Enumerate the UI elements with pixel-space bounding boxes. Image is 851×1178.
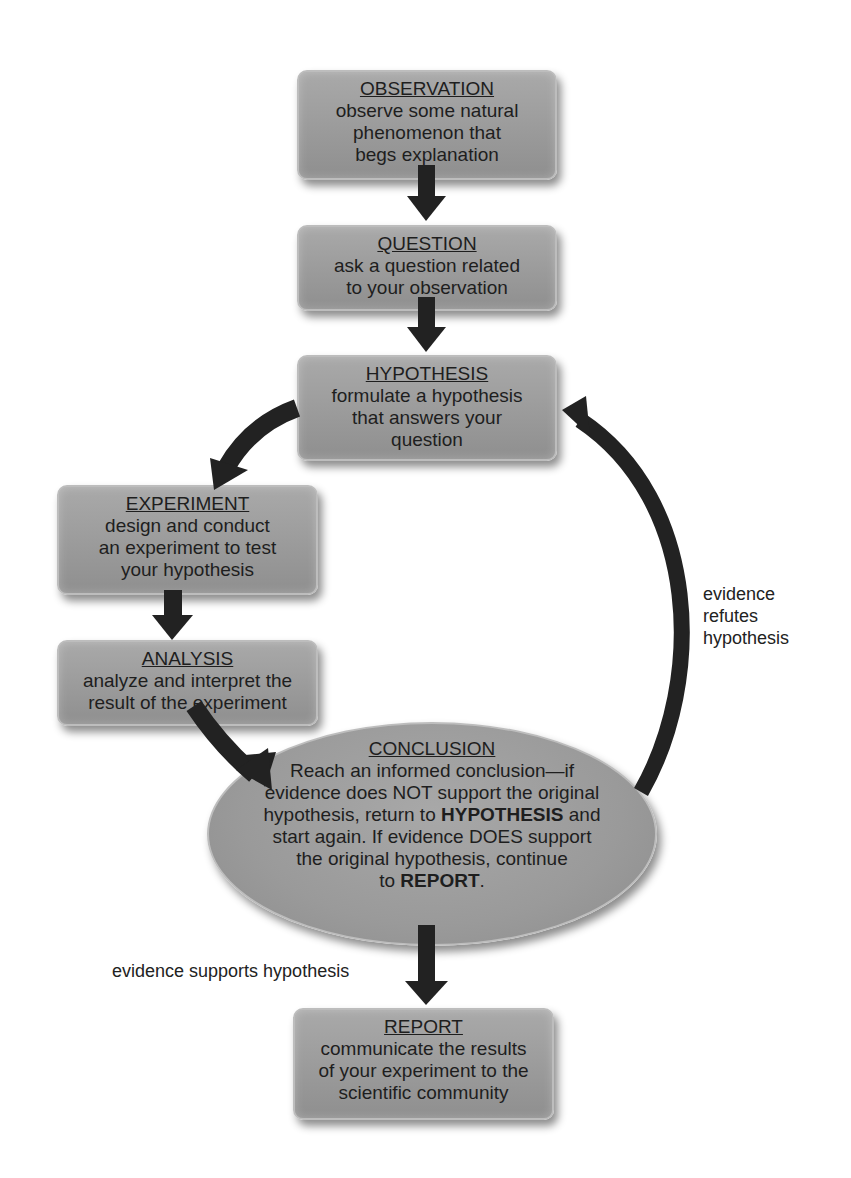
node-hypothesis: HYPOTHESIS formulate a hypothesis that a…: [297, 355, 557, 461]
node-description: ask a question related to your observati…: [299, 255, 555, 299]
node-description: design and conduct an experiment to test…: [59, 515, 316, 581]
node-experiment: EXPERIMENT design and conduct an experim…: [57, 485, 318, 595]
node-question: QUESTION ask a question related to your …: [297, 225, 557, 311]
node-title: QUESTION: [299, 233, 555, 255]
node-title: ANALYSIS: [59, 648, 316, 670]
node-description: analyze and interpret the result of the …: [59, 670, 316, 714]
edge-label-supports: evidence supports hypothesis: [112, 960, 349, 982]
hypothesis-emphasis: HYPOTHESIS: [441, 804, 563, 825]
node-report: REPORT communicate the results of your e…: [293, 1008, 554, 1120]
conclusion-line: Reach an informed conclusion—if: [209, 760, 655, 782]
conclusion-line: to REPORT.: [209, 870, 655, 892]
node-title: CONCLUSION: [209, 738, 655, 760]
feedback-arc-arrow-icon: [562, 396, 682, 792]
node-description: observe some natural phenomenon that beg…: [299, 100, 555, 166]
conclusion-line: evidence does NOT support the original: [209, 782, 655, 804]
node-analysis: ANALYSIS analyze and interpret the resul…: [57, 640, 318, 726]
node-title: HYPOTHESIS: [299, 363, 555, 385]
edge-label-refutes: evidence refutes hypothesis: [703, 583, 789, 649]
node-title: OBSERVATION: [299, 78, 555, 100]
report-emphasis: REPORT: [400, 870, 479, 891]
node-description: formulate a hypothesis that answers your…: [299, 385, 555, 451]
arrow-down-icon: [152, 590, 193, 640]
scientific-method-diagram: OBSERVATION observe some natural phenome…: [0, 0, 851, 1178]
node-title: REPORT: [295, 1016, 552, 1038]
conclusion-text: .: [480, 870, 485, 891]
conclusion-line: hypothesis, return to HYPOTHESIS and: [209, 804, 655, 826]
conclusion-line: the original hypothesis, continue: [209, 848, 655, 870]
node-description: communicate the results of your experime…: [295, 1038, 552, 1104]
conclusion-text: and: [563, 804, 600, 825]
conclusion-text: hypothesis, return to: [264, 804, 441, 825]
conclusion-text: to: [379, 870, 400, 891]
conclusion-line: start again. If evidence DOES support: [209, 826, 655, 848]
curved-arrow-icon: [210, 408, 297, 490]
node-observation: OBSERVATION observe some natural phenome…: [297, 70, 557, 180]
node-title: EXPERIMENT: [59, 493, 316, 515]
node-conclusion: CONCLUSION Reach an informed conclusion—…: [207, 722, 657, 946]
